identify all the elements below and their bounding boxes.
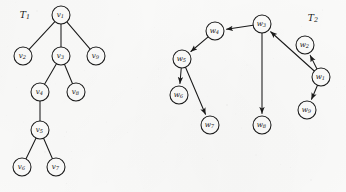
graph-node-v4: v4: [31, 83, 49, 101]
graph-node-w6: w6: [170, 86, 188, 104]
node-circle-v4: [31, 83, 49, 101]
graph-title-T2: T2: [308, 12, 318, 24]
graph-edge-w3-w4: [226, 25, 253, 29]
graph-node-v2: v2: [14, 47, 32, 65]
node-circle-v8: [67, 83, 85, 101]
graph-node-v1: v1: [52, 6, 70, 24]
node-circle-w8: [253, 116, 271, 134]
graph-node-w8: w8: [253, 116, 271, 134]
graph-node-w3: w3: [253, 15, 271, 33]
node-circle-v5: [31, 121, 49, 139]
node-circle-w9: [298, 101, 316, 119]
graph-node-w4: w4: [206, 22, 224, 40]
node-circle-v6: [13, 158, 31, 176]
node-circle-w7: [201, 116, 219, 134]
graph-edge-v1-v2: [29, 22, 55, 50]
graph-node-v6: v6: [13, 158, 31, 176]
graph-edge-w4-w5: [191, 37, 208, 52]
graph-edge-w5-w6: [180, 68, 181, 83]
graph-canvas: v1v2v3v9v4v8v5v6v7w3w4w5w6w7w8w2w1w9 T1T…: [0, 0, 346, 192]
graph-edge-w1-w9: [312, 85, 318, 99]
node-circle-v3: [52, 47, 70, 65]
graph-node-w7: w7: [201, 116, 219, 134]
graph-node-w1: w1: [312, 68, 330, 86]
node-circle-v1: [52, 6, 70, 24]
graph-edge-w1-w2: [310, 55, 317, 69]
graph-node-w5: w5: [173, 50, 191, 68]
figure-root: v1v2v3v9v4v8v5v6v7w3w4w5w6w7w8w2w1w9 T1T…: [0, 0, 346, 192]
graph-edge-v3-v8: [64, 64, 72, 83]
graph-node-w2: w2: [296, 36, 314, 54]
graph-edge-v3-v4: [45, 64, 57, 84]
graph-node-v9: v9: [87, 47, 105, 65]
node-circle-w1: [312, 68, 330, 86]
node-circle-w5: [173, 50, 191, 68]
node-circle-v2: [14, 47, 32, 65]
graph-node-v7: v7: [47, 158, 65, 176]
graph-node-v8: v8: [67, 83, 85, 101]
graph-edge-v5-v6: [26, 138, 36, 159]
graph-edge-v5-v7: [44, 138, 53, 158]
node-circle-v7: [47, 158, 65, 176]
graph-edge-w5-w7: [186, 67, 206, 114]
node-circle-v9: [87, 47, 105, 65]
graph-node-v3: v3: [52, 47, 70, 65]
graph-node-v5: v5: [31, 121, 49, 139]
graph-node-w9: w9: [298, 101, 316, 119]
graph-edge-v1-v9: [67, 22, 90, 49]
node-circle-w3: [253, 15, 271, 33]
node-circle-w6: [170, 86, 188, 104]
node-circle-w2: [296, 36, 314, 54]
graph-title-T1: T1: [20, 9, 30, 21]
node-circle-w4: [206, 22, 224, 40]
